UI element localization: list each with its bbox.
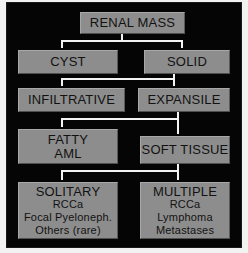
node-expansile-label: EXPANSILE bbox=[147, 93, 220, 107]
node-fatty-aml-label: FATTY bbox=[48, 133, 88, 147]
node-fatty-aml-sublabel-1: AML bbox=[54, 147, 81, 161]
connector-soft-tissue-bar bbox=[61, 170, 179, 172]
node-cyst-label: CYST bbox=[50, 55, 85, 69]
node-fatty-aml[interactable]: FATTY AML bbox=[18, 129, 118, 164]
node-soft-tissue-label: SOFT TISSUE bbox=[142, 143, 229, 157]
connector-renal-mass-bar bbox=[61, 40, 183, 42]
connector-to-infiltrative bbox=[61, 78, 63, 86]
node-multiple-label: MULTIPLE bbox=[153, 185, 217, 199]
node-solitary-label: SOLITARY bbox=[36, 185, 101, 199]
flowchart-root: RENAL MASS CYST SOLID INFILTRATIVE EXPAN… bbox=[0, 0, 248, 253]
connector-to-fatty-aml bbox=[61, 118, 63, 127]
node-multiple-item-2: Lymphoma bbox=[157, 212, 213, 224]
connector-to-solitary bbox=[61, 170, 63, 180]
node-solitary-item-3: Others (rare) bbox=[35, 225, 101, 237]
node-multiple-item-3: Metastases bbox=[156, 225, 214, 237]
node-multiple[interactable]: MULTIPLE RCCa Lymphoma Metastases bbox=[140, 182, 230, 239]
node-renal-mass[interactable]: RENAL MASS bbox=[80, 12, 185, 34]
connector-solid-bar bbox=[61, 78, 175, 80]
connector-to-multiple bbox=[177, 170, 179, 180]
node-renal-mass-label: RENAL MASS bbox=[90, 16, 175, 30]
node-soft-tissue[interactable]: SOFT TISSUE bbox=[140, 136, 230, 164]
diagram-canvas: RENAL MASS CYST SOLID INFILTRATIVE EXPAN… bbox=[7, 3, 241, 247]
node-solid[interactable]: SOLID bbox=[144, 50, 230, 74]
node-multiple-item-1: RCCa bbox=[170, 199, 201, 211]
node-solitary[interactable]: SOLITARY RCCa Focal Pyeloneph. Others (r… bbox=[18, 182, 118, 239]
node-infiltrative[interactable]: INFILTRATIVE bbox=[18, 88, 125, 112]
connector-to-solid bbox=[181, 40, 183, 48]
node-solitary-item-2: Focal Pyeloneph. bbox=[24, 212, 112, 224]
connector-to-soft-tissue bbox=[177, 118, 179, 134]
node-solitary-item-1: RCCa bbox=[53, 199, 84, 211]
connector-expansile-bar bbox=[61, 118, 179, 120]
connector-to-cyst bbox=[61, 40, 63, 48]
node-solid-label: SOLID bbox=[167, 55, 207, 69]
connector-to-expansile bbox=[173, 78, 175, 86]
node-infiltrative-label: INFILTRATIVE bbox=[28, 93, 115, 107]
node-cyst[interactable]: CYST bbox=[18, 50, 118, 74]
node-expansile[interactable]: EXPANSILE bbox=[138, 88, 230, 112]
